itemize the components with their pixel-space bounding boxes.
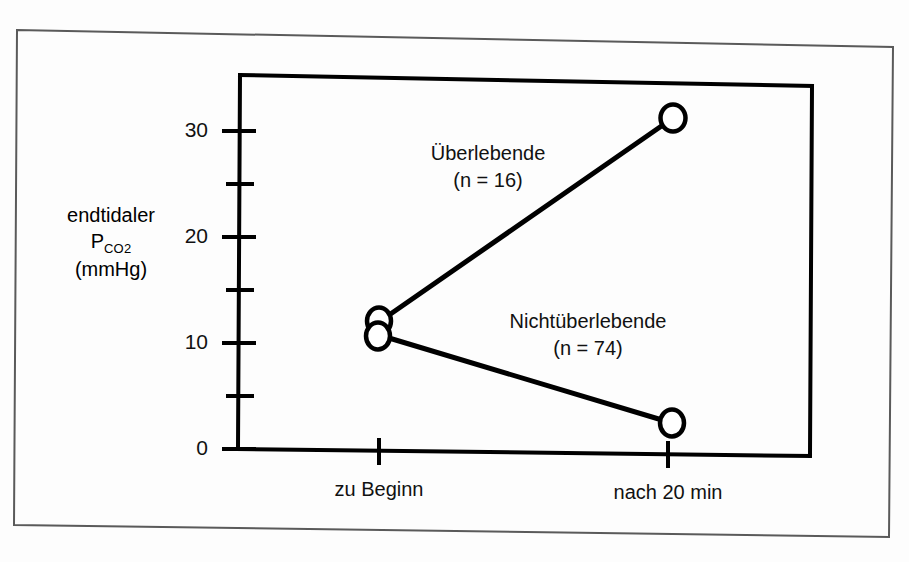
series-annotation-nonsurvivors-name: Nichtüberlebende: [510, 310, 667, 332]
y-axis-title: endtidaler PCO2 (mmHg): [36, 203, 186, 283]
series-annotation-survivors-count: (n = 16): [393, 167, 583, 194]
series-annotation-survivors-name: Überlebende: [431, 142, 546, 164]
y-tick-label-10: 10: [166, 330, 208, 354]
plot-frame: [238, 75, 812, 456]
marker-nonsurvivors-start: [366, 323, 390, 350]
y-tick-label-0: 0: [166, 436, 208, 460]
figure-root: 30 20 10 0 endtidaler PCO2 (mmHg) zu Beg…: [0, 0, 909, 562]
series-annotation-survivors: Überlebende (n = 16): [393, 140, 583, 194]
plot-frame-top: [240, 75, 812, 86]
y-tick-label-30: 30: [166, 118, 208, 142]
y-axis-title-subscript: CO: [104, 241, 124, 256]
y-axis-title-line1: endtidaler: [67, 204, 155, 226]
series-annotation-nonsurvivors-count: (n = 74): [465, 335, 711, 362]
x-tick-label-nach-20-min: nach 20 min: [583, 481, 753, 504]
plot-frame-right: [810, 86, 812, 455]
marker-nonsurvivors-end: [660, 410, 684, 437]
series-annotation-nonsurvivors: Nichtüberlebende (n = 74): [465, 308, 711, 362]
y-axis-title-subscript-number: 2: [124, 241, 131, 256]
x-tick-label-zu-beginn: zu Beginn: [299, 478, 459, 501]
y-axis-title-symbol-line: PCO2: [36, 229, 186, 258]
y-axis-title-unit: (mmHg): [36, 257, 186, 283]
marker-survivors-end: [661, 105, 686, 132]
plot-frame-bottom: [238, 449, 810, 456]
y-axis-title-symbol: P: [91, 230, 104, 252]
